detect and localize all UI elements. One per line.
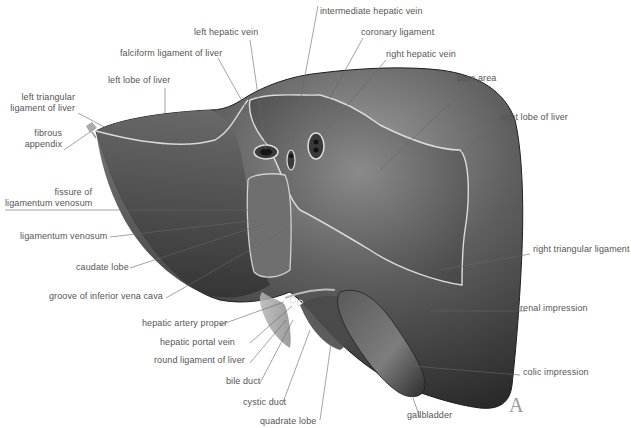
panel-letter: A	[509, 394, 523, 417]
anatomy-figure: intermediate hepatic vein left hepatic v…	[0, 0, 631, 428]
label-renal-impression: renal impression	[520, 303, 588, 314]
right-hepatic-vein-opening	[308, 133, 324, 159]
label-round-ligament: round ligament of liver	[154, 355, 245, 366]
round-ligament	[260, 292, 291, 348]
label-caudate-lobe: caudate lobe	[76, 262, 129, 273]
label-left-lobe: left lobe of liver	[108, 75, 170, 86]
label-fissure-ligamentum-venosum: fissure of ligamentum venosum	[5, 187, 92, 209]
label-right-lobe: right lobe of liver	[500, 112, 568, 123]
label-bare-area: bare area	[457, 73, 496, 84]
caudate-lobe-region	[247, 174, 291, 277]
intermediate-hepatic-vein-opening	[287, 150, 295, 170]
label-cystic-duct: cystic duct	[243, 397, 286, 408]
label-fibrous-appendix: fibrous appendix	[10, 128, 62, 150]
label-ligamentum-venosum: ligamentum venosum	[20, 231, 107, 242]
label-right-hepatic-vein: right hepatic vein	[386, 49, 456, 60]
label-right-triangular-ligament: right triangular ligament	[533, 244, 630, 255]
fibrous-appendix-shape	[86, 122, 97, 133]
label-hepatic-artery-proper: hepatic artery proper	[142, 318, 227, 329]
label-groove-inferior-vena-cava: groove of inferior vena cava	[49, 291, 163, 302]
liver-illustration	[0, 0, 631, 428]
label-gallbladder: gallbladder	[407, 410, 452, 421]
label-colic-impression: colic impression	[523, 367, 589, 378]
label-coronary-ligament: coronary ligament	[361, 27, 434, 38]
label-left-hepatic-vein: left hepatic vein	[194, 27, 258, 38]
label-left-triangular-ligament: left triangular ligament of liver	[10, 92, 75, 114]
label-intermediate-hepatic-vein: intermediate hepatic vein	[320, 6, 423, 17]
label-falciform-ligament: falciform ligament of liver	[120, 48, 222, 59]
label-hepatic-portal-vein: hepatic portal vein	[160, 337, 235, 348]
label-quadrate-lobe: quadrate lobe	[260, 416, 316, 427]
label-bile-duct: bile duct	[226, 376, 260, 387]
